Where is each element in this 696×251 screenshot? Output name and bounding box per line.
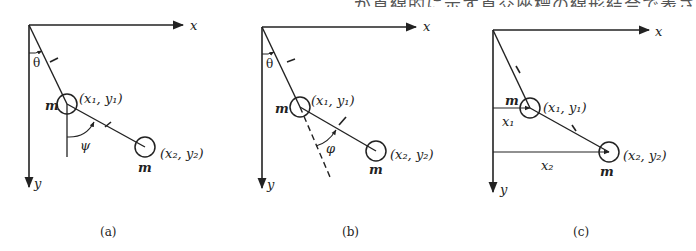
psi-arc <box>67 122 94 137</box>
point-2-label: (x₂, y₂) <box>160 146 204 161</box>
mass-2-label: m <box>600 164 614 179</box>
point-1-label: (x₁, y₁) <box>311 93 355 108</box>
rod-1-length-tick <box>287 59 295 62</box>
psi-label: ψ <box>80 138 91 153</box>
point-1-label: (x₁, y₁) <box>79 91 123 106</box>
x-axis-label: x <box>423 19 431 34</box>
theta-label: θ <box>33 56 40 70</box>
rod-1-length-tick <box>516 66 520 73</box>
caption-b: (b) <box>342 225 359 239</box>
mass-1-label: m <box>45 98 59 113</box>
panel-b: x y θ φ m m (x₁, y₁) (x₂, y₂) (b) <box>262 19 434 239</box>
rod-2-length-tick <box>572 125 576 131</box>
caption-a: (a) <box>100 225 117 239</box>
rod-1-length-tick <box>50 58 58 62</box>
y-axis-label: y <box>33 176 42 191</box>
mass-2-label: m <box>369 162 383 177</box>
x-axis-label: x <box>190 18 198 33</box>
point-2-label: (x₂, y₂) <box>390 147 434 162</box>
panel-a: x y θ ψ m m (x₁, y₁) (x₂, y₂) (a) <box>29 18 204 239</box>
mass-1-label: m <box>275 101 289 116</box>
rod-2 <box>300 107 376 151</box>
mass-2-label: m <box>138 160 152 175</box>
x1-distance-label: x₁ <box>502 114 515 129</box>
rod-2-length-tick <box>339 117 346 125</box>
phi-label: φ <box>326 141 336 156</box>
point-2-label: (x₂, y₂) <box>623 148 667 163</box>
panel-c: x y x₁ x₂ m m (x₁, y₁) (x₂, y₂) (c) <box>493 24 667 239</box>
x-axis-label: x <box>655 24 663 39</box>
y-axis-label: y <box>266 177 275 192</box>
theta-label: θ <box>266 57 273 71</box>
theta-arc <box>29 51 42 53</box>
y-axis-label: y <box>499 182 508 197</box>
caption-c: (c) <box>573 225 589 239</box>
x2-distance-label: x₂ <box>541 158 554 173</box>
theta-arc <box>262 52 274 54</box>
point-1-label: (x₁, y₁) <box>543 100 587 115</box>
double-pendulum-figure: x y θ ψ m m (x₁, y₁) (x₂, y₂) (a) x y θ … <box>0 0 696 251</box>
mass-1-label: m <box>505 93 519 108</box>
